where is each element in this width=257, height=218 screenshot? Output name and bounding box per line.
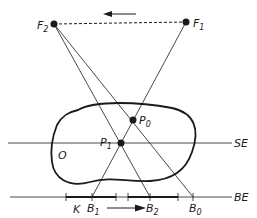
focus-path-dashed (54, 22, 186, 24)
arrow-left-icon (103, 11, 136, 17)
label-b0: B0 (189, 202, 202, 217)
label-f1: F1 (193, 17, 204, 32)
label-p1: P1 (100, 136, 112, 151)
label-o: O (58, 149, 67, 162)
label-b2: B2 (146, 202, 159, 217)
point-p1 (118, 140, 125, 147)
point-f1 (183, 19, 190, 26)
point-f2 (51, 21, 58, 28)
label-p0: P0 (139, 114, 151, 129)
arrow-right-icon (107, 205, 146, 212)
label-k: K (73, 203, 81, 216)
point-p0 (130, 117, 137, 124)
label-se: SE (234, 137, 248, 150)
tomography-diagram: F2 F1 P0 P1 O SE BE K B1 B2 B0 (0, 0, 257, 218)
label-f2: F2 (37, 19, 48, 34)
label-b1: B1 (87, 202, 100, 217)
label-be: BE (234, 191, 249, 204)
ray-f2-b2 (54, 24, 150, 197)
